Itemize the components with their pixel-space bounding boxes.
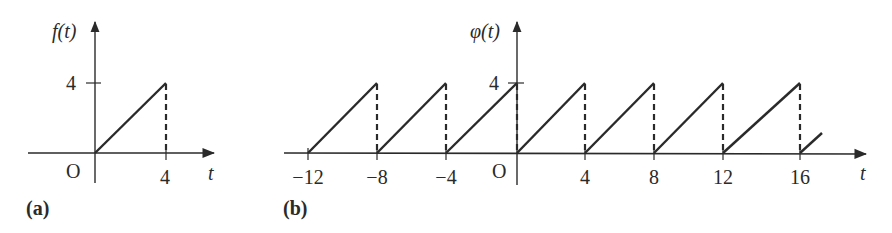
panel-b-origin-label: O — [492, 160, 506, 182]
panel-b-ylabel: φ(t) — [470, 20, 500, 43]
panel-b — [284, 22, 866, 185]
panel-a-ytick-label: 4 — [66, 72, 76, 94]
panel-a-xlabel: t — [208, 162, 214, 184]
panel-b-dashed-drops — [377, 84, 800, 153]
panel-a-caption: (a) — [26, 197, 49, 220]
panel-b-ramps — [308, 83, 822, 153]
panel-b-ytick-label: 4 — [489, 72, 499, 94]
panel-b-xtick-label: −12 — [292, 166, 323, 188]
panel-b-xtick-label: 4 — [580, 166, 590, 188]
panel-a-ylabel: f(t) — [52, 20, 77, 43]
panel-a-origin-label: O — [66, 160, 80, 182]
panel-b-x-axis — [284, 153, 866, 154]
panel-b-xtick-label: −8 — [366, 166, 387, 188]
panel-b-xtick-label: 12 — [713, 166, 733, 188]
panel-b-xtick-label: 16 — [790, 166, 810, 188]
panel-b-xtick-label: −4 — [435, 166, 456, 188]
panel-a — [28, 22, 214, 183]
panel-a-ramp — [95, 83, 166, 153]
panel-a-xtick-label: 4 — [160, 166, 170, 188]
figure: f(t) 4 O 4 t (a) — [0, 0, 892, 233]
panel-b-caption: (b) — [283, 197, 307, 220]
panel-b-xtick-label: 8 — [649, 166, 659, 188]
panel-b-xlabel: t — [860, 162, 866, 184]
